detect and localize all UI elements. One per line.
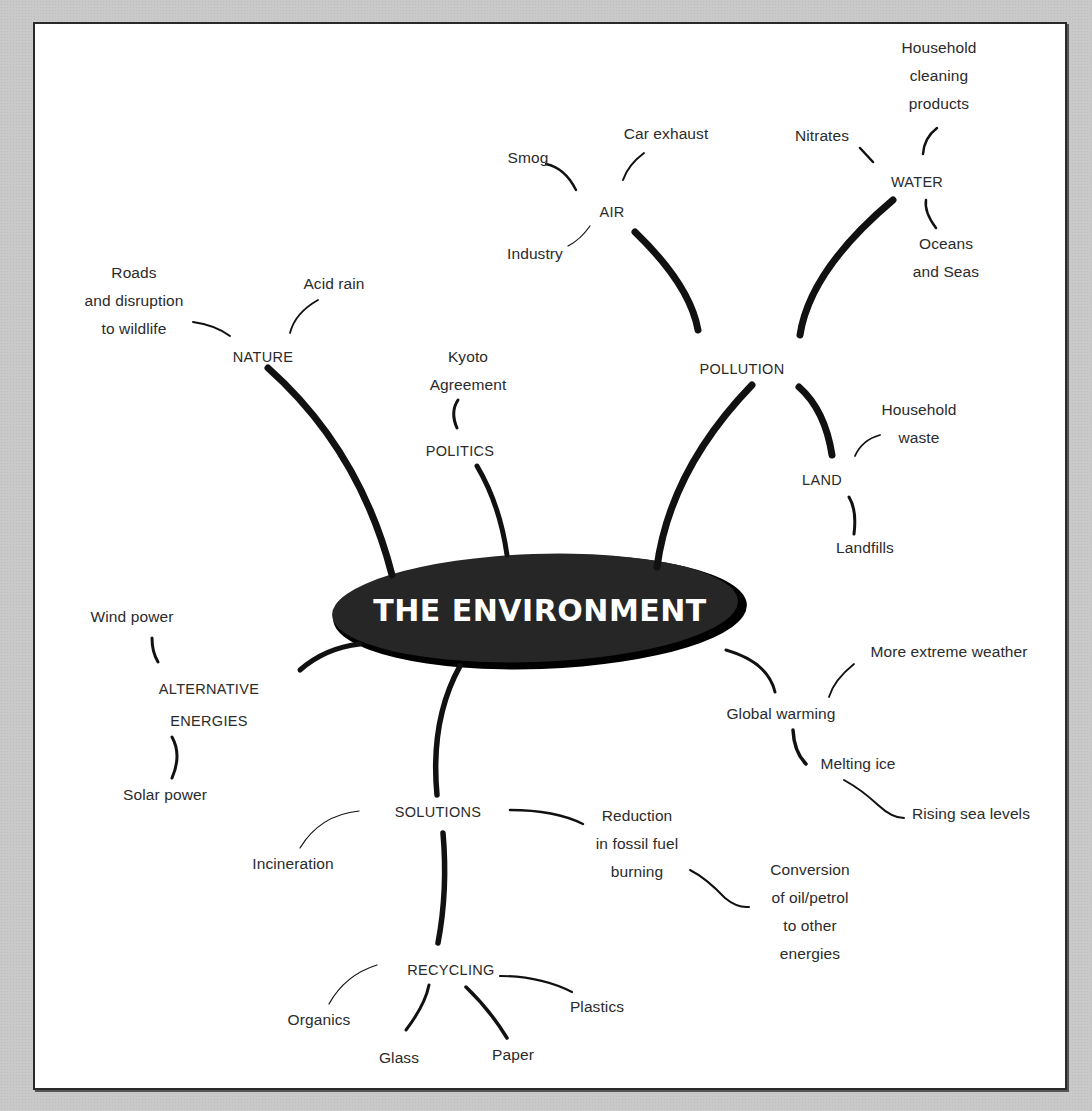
node-global-warming: Global warming [726,700,835,728]
node-roads-disruption: Roads and disruption to wildlife [85,259,184,343]
node-land: LAND [802,466,842,494]
node-paper: Paper [492,1041,534,1069]
node-industry: Industry [507,240,563,268]
node-water: WATER [891,168,943,196]
node-alternative-energies: ALTERNATIVE ENERGIES [159,673,259,737]
node-recycling: RECYCLING [407,956,494,984]
node-rising-sea-levels: Rising sea levels [912,800,1030,828]
node-nitrates: Nitrates [795,122,849,150]
node-air: AIR [599,198,624,226]
node-landfills: Landfills [836,534,894,562]
node-car-exhaust: Car exhaust [624,120,709,148]
node-nature: NATURE [233,343,293,371]
central-topic: THE ENVIRONMENT [373,593,707,628]
node-plastics: Plastics [570,993,624,1021]
node-politics: POLITICS [426,437,494,465]
node-acid-rain: Acid rain [303,270,364,298]
node-pollution: POLLUTION [700,355,785,383]
node-household-cleaning: Household cleaning products [901,34,976,118]
node-kyoto-agreement: Kyoto Agreement [430,343,507,399]
node-incineration: Incineration [252,850,333,878]
node-wind-power: Wind power [91,603,174,631]
node-solutions: SOLUTIONS [395,798,482,826]
node-solar-power: Solar power [123,781,207,809]
node-melting-ice: Melting ice [820,750,895,778]
node-organics: Organics [288,1006,351,1034]
node-oceans-seas: Oceans and Seas [913,230,979,286]
node-more-extreme-weather: More extreme weather [870,638,1027,666]
node-household-waste: Household waste [881,396,956,452]
node-conversion-oil-petrol: Conversion of oil/petrol to other energi… [770,856,849,968]
node-reduction-fossil-fuel: Reduction in fossil fuel burning [596,802,678,886]
node-smog: Smog [508,144,549,172]
node-glass: Glass [379,1044,419,1072]
